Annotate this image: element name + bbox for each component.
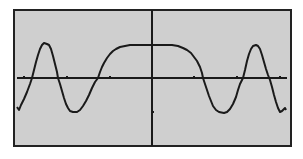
- graph-screen: [0, 0, 303, 159]
